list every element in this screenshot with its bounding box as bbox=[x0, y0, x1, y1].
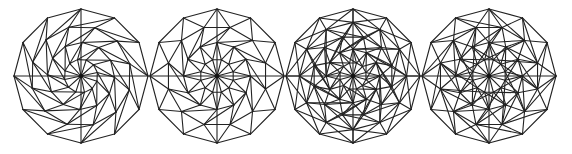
mesh-edge bbox=[431, 110, 453, 112]
mesh-edge bbox=[472, 105, 476, 125]
mesh-edge bbox=[114, 77, 115, 112]
mesh-edge bbox=[502, 27, 506, 47]
mesh-edge bbox=[453, 18, 455, 40]
mesh-edge bbox=[159, 43, 168, 63]
mesh-edge bbox=[45, 109, 80, 110]
mesh-edge bbox=[399, 43, 411, 50]
mesh-edge bbox=[502, 125, 522, 134]
mesh-edge bbox=[525, 89, 538, 112]
mesh-edge bbox=[387, 110, 412, 135]
mesh-edge bbox=[253, 89, 266, 112]
mesh-edge bbox=[217, 92, 221, 109]
mesh-edge bbox=[340, 99, 343, 115]
figure-canvas bbox=[0, 0, 572, 154]
mesh-edge bbox=[46, 40, 47, 75]
mesh-edge bbox=[538, 43, 547, 63]
mesh-edge bbox=[251, 18, 253, 40]
mesh-edge bbox=[453, 112, 476, 125]
mesh-edge bbox=[295, 110, 320, 135]
mesh-edge bbox=[82, 41, 117, 42]
mesh-edge bbox=[476, 125, 523, 134]
mesh-edge bbox=[213, 43, 217, 60]
mesh-edge bbox=[440, 59, 460, 63]
mesh-edge bbox=[363, 37, 381, 47]
mesh-edge bbox=[159, 40, 181, 42]
mesh-edge bbox=[320, 122, 327, 134]
mesh-edge bbox=[184, 76, 201, 80]
mesh-edge bbox=[523, 112, 525, 134]
center-vertex bbox=[79, 74, 83, 78]
mesh-edge bbox=[168, 63, 188, 93]
mesh-c bbox=[283, 6, 423, 146]
mesh-edge bbox=[168, 40, 181, 63]
mesh-edge bbox=[456, 18, 476, 27]
mesh-edge bbox=[251, 18, 276, 43]
mesh-a bbox=[11, 6, 151, 146]
mesh-edge bbox=[440, 63, 460, 93]
mesh-edge bbox=[51, 92, 63, 105]
mesh-edge bbox=[99, 48, 111, 61]
mesh-edge bbox=[251, 112, 253, 134]
mesh-edge bbox=[23, 43, 32, 89]
mesh-edge bbox=[538, 43, 547, 90]
mesh-edge bbox=[229, 64, 233, 72]
mesh-edge bbox=[86, 60, 93, 65]
mesh-edge bbox=[111, 60, 130, 90]
mesh-edge bbox=[253, 40, 275, 42]
mesh-edge bbox=[205, 88, 213, 92]
mesh-edge bbox=[221, 60, 229, 64]
mesh-edge bbox=[65, 28, 95, 47]
mesh-edge bbox=[246, 76, 250, 93]
mesh-edge bbox=[380, 122, 387, 134]
mesh-edge bbox=[234, 93, 246, 105]
mesh-edge bbox=[314, 48, 324, 66]
mesh-edge bbox=[184, 59, 188, 76]
mesh-edge bbox=[181, 112, 204, 125]
mesh-edge bbox=[221, 88, 229, 92]
mesh-edge bbox=[518, 89, 538, 93]
mesh-edge bbox=[33, 62, 52, 92]
mesh-edge bbox=[399, 103, 411, 110]
mesh-edge bbox=[48, 58, 53, 75]
mesh-d bbox=[419, 6, 559, 146]
mesh-edge bbox=[205, 60, 213, 64]
mesh-edge bbox=[476, 105, 506, 125]
mesh-edge bbox=[233, 76, 250, 80]
mesh-edge bbox=[181, 18, 183, 40]
mesh-edge bbox=[159, 89, 168, 109]
mesh-edge bbox=[295, 103, 307, 110]
mesh-edge bbox=[184, 18, 204, 27]
mesh-edge bbox=[201, 64, 205, 72]
mesh-edge bbox=[130, 64, 139, 110]
mesh-edge bbox=[93, 60, 110, 65]
mesh-edge bbox=[92, 88, 97, 105]
mesh-edge bbox=[525, 40, 547, 42]
mesh-edge bbox=[159, 110, 184, 135]
mesh-edge bbox=[295, 18, 320, 43]
mesh-edge bbox=[51, 87, 68, 92]
mesh-edge bbox=[376, 86, 392, 89]
mesh-b bbox=[147, 6, 287, 146]
mesh-edge bbox=[69, 18, 115, 27]
mesh-edge bbox=[381, 86, 391, 104]
mesh-edge bbox=[181, 112, 183, 134]
mesh-edge bbox=[201, 80, 205, 88]
mesh-edge bbox=[65, 64, 70, 71]
mesh-edge bbox=[213, 92, 217, 109]
mesh-edge bbox=[233, 72, 250, 76]
mesh-edge bbox=[200, 27, 230, 47]
mesh-edge bbox=[266, 89, 275, 109]
mesh-edge bbox=[440, 40, 453, 63]
mesh-edge bbox=[251, 110, 276, 135]
mesh-edge bbox=[188, 47, 200, 59]
mesh-edge bbox=[109, 77, 114, 94]
mesh-edge bbox=[325, 104, 343, 114]
mesh-edge bbox=[69, 87, 76, 92]
mesh-edge bbox=[230, 27, 253, 40]
mesh-edge bbox=[217, 43, 234, 47]
mesh-edge bbox=[53, 46, 66, 58]
mesh-edge bbox=[320, 18, 327, 30]
mesh-edge bbox=[48, 134, 82, 143]
mesh-edge bbox=[159, 18, 184, 43]
center-vertex bbox=[215, 74, 219, 78]
